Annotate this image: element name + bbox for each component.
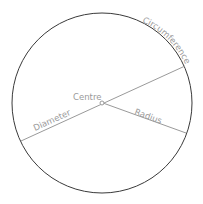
centre-label: Centre bbox=[73, 92, 101, 102]
circle-diagram-canvas: Centre Radius Diameter Circumference bbox=[0, 0, 203, 204]
circumference-label-path: Circumference bbox=[141, 15, 192, 66]
circumference-label: Circumference bbox=[141, 15, 192, 66]
radius-label: Radius bbox=[133, 106, 164, 125]
circle-diagram: Centre Radius Diameter Circumference bbox=[0, 0, 203, 204]
